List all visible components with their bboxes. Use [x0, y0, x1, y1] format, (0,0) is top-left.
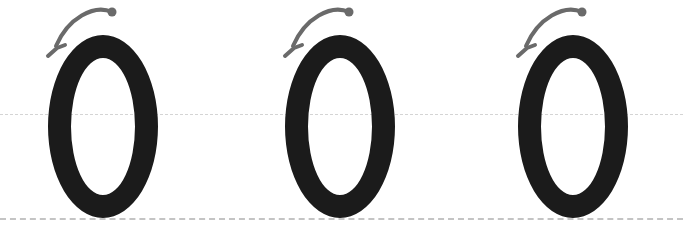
letter-group-2 [285, 0, 395, 233]
letter-glyph-o-2 [285, 35, 395, 218]
letter-glyph-o-3 [518, 35, 628, 218]
letter-group-1 [48, 0, 158, 233]
letter-tracing-worksheet: Trace the letter O following the arrow, … [0, 0, 683, 233]
worksheet-instruction: Trace the letter O following the arrow, … [0, 0, 1, 1]
letter-group-3 [518, 0, 628, 233]
letter-glyph-o-1 [48, 35, 158, 218]
